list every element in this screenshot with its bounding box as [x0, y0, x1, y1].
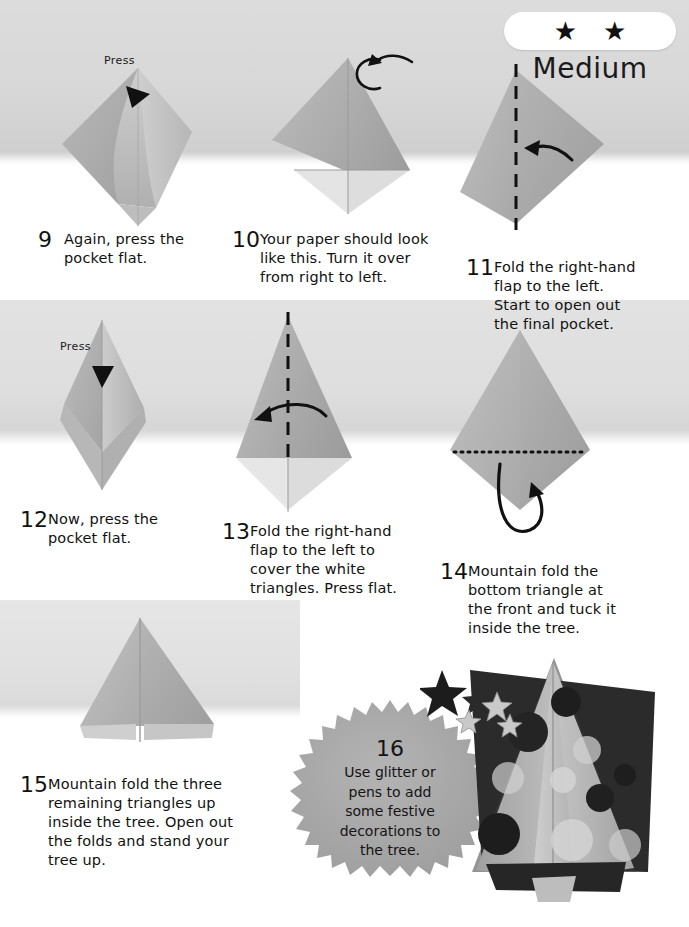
step-text: Again, press the pocket flat. [64, 230, 184, 268]
press-annotation-label: Press [104, 54, 135, 67]
step-11: 11 Fold the right-hand flap to the left.… [466, 258, 676, 334]
step-text: Now, press the pocket flat. [48, 510, 158, 548]
step-text: Fold the right-hand flap to the left. St… [494, 258, 636, 334]
figure-step-10 [262, 42, 452, 222]
step-number: 11 [466, 258, 494, 278]
step-number: 13 [222, 522, 250, 542]
figure-step-11 [448, 62, 633, 232]
step-14: 14 Mountain fold the bottom triangle at … [440, 562, 660, 638]
step-13: 13 Fold the right-hand flap to the left … [222, 522, 432, 598]
step-12: 12 Now, press the pocket flat. [20, 510, 220, 548]
step-number: 10 [232, 230, 260, 250]
callout-number: 16 [376, 737, 404, 761]
step-15: 15 Mountain fold the three remaining tri… [20, 775, 255, 870]
star-icon: ★ [554, 18, 577, 44]
step-number: 12 [20, 510, 48, 530]
step-number: 9 [38, 230, 64, 250]
step-10: 10 Your paper should look like this. Tur… [232, 230, 447, 287]
figure-step-9: Press [52, 58, 242, 228]
step-text: Mountain fold the three remaining triang… [48, 775, 233, 870]
step-number: 14 [440, 562, 468, 582]
figure-step-15 [62, 612, 252, 752]
finished-tree-photo [420, 640, 689, 910]
instruction-page: ★ ★ Medium [0, 0, 689, 927]
star-icon: ★ [603, 18, 626, 44]
figure-step-14 [432, 322, 617, 552]
difficulty-badge: ★ ★ [504, 12, 676, 50]
step-number: 15 [20, 775, 48, 795]
step-9: 9 Again, press the pocket flat. [38, 230, 238, 268]
figure-step-13 [222, 312, 397, 517]
step-text: Fold the right-hand flap to the left to … [250, 522, 397, 598]
step-text: Mountain fold the bottom triangle at the… [468, 562, 616, 638]
figure-step-12: Press [40, 312, 200, 497]
press-annotation-label: Press [60, 340, 91, 353]
step-text: Your paper should look like this. Turn i… [260, 230, 428, 287]
